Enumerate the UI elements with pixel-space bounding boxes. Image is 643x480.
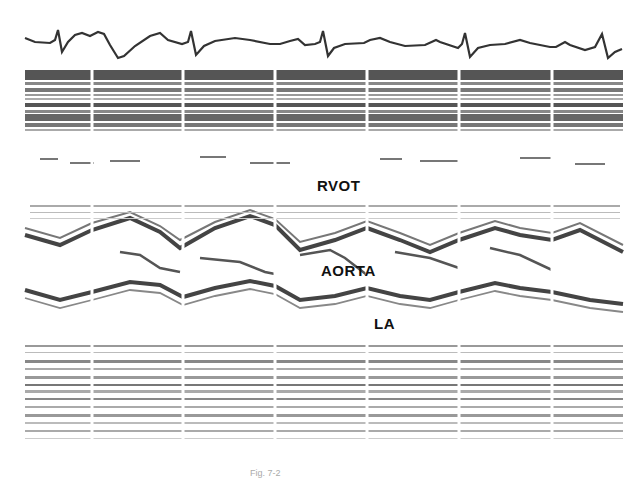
mmode-graphic bbox=[0, 0, 643, 480]
timing-marks bbox=[92, 65, 552, 445]
horizontal-bands bbox=[25, 70, 623, 131]
ecg-trace bbox=[25, 30, 622, 58]
lower-bands bbox=[25, 345, 623, 439]
label-la: LA bbox=[374, 315, 395, 332]
posterior-aortic-wall bbox=[25, 281, 623, 304]
label-rvot: RVOT bbox=[317, 177, 360, 194]
anterior-aortic-wall bbox=[25, 216, 623, 252]
figure-caption: Fig. 7-2 bbox=[250, 468, 281, 478]
label-aorta: AORTA bbox=[321, 262, 376, 279]
echocardiogram-figure: RVOT AORTA LA Fig. 7-2 bbox=[0, 0, 643, 480]
